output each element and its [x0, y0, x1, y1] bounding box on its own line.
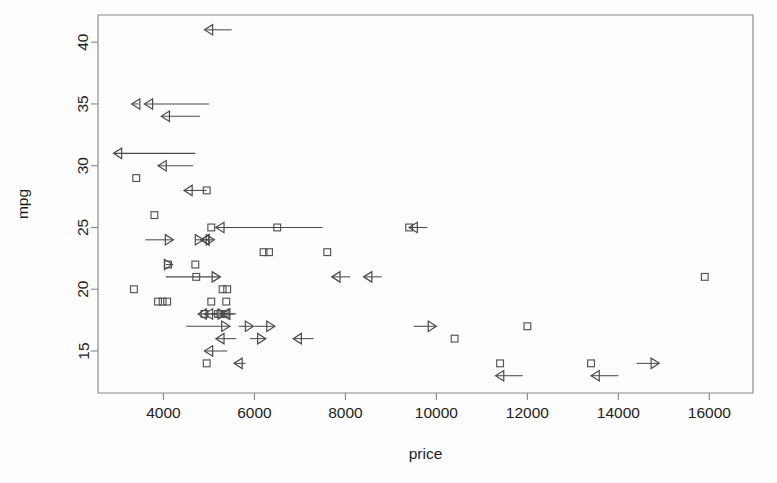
y-axis-title: mpg [14, 189, 31, 219]
y-tick-label: 40 [75, 33, 92, 51]
plot-background [0, 0, 777, 483]
x-axis-title: price [409, 445, 443, 462]
x-tick-label: 12000 [506, 404, 549, 421]
y-tick-label: 15 [75, 342, 92, 359]
x-tick-label: 16000 [688, 404, 731, 421]
x-tick-label: 6000 [237, 404, 272, 421]
y-tick-label: 20 [75, 280, 92, 298]
x-tick-label: 4000 [146, 404, 181, 421]
x-tick-label: 8000 [328, 404, 363, 421]
y-tick-label: 25 [75, 219, 92, 236]
x-tick-label: 14000 [597, 404, 640, 421]
y-tick-label: 35 [75, 95, 92, 112]
scatter-plot-figure: 40006000800010000120001400016000 1520253… [0, 0, 777, 483]
plot-canvas: 40006000800010000120001400016000 1520253… [0, 0, 777, 483]
x-tick-label: 10000 [415, 404, 458, 421]
y-tick-label: 30 [75, 157, 92, 175]
